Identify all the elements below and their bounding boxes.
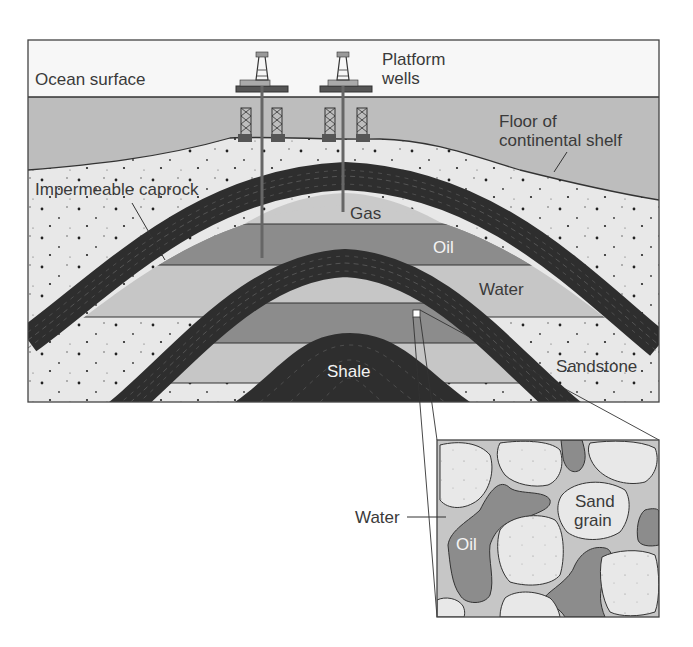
label-floor-1: Floor of [499, 112, 557, 131]
label-platform-wells-2: wells [382, 69, 420, 88]
label-gas: Gas [350, 204, 381, 223]
inset-label-grain: grain [574, 511, 612, 530]
inset-label-oil: Oil [456, 535, 477, 554]
label-shale: Shale [327, 362, 370, 381]
label-water: Water [479, 280, 524, 299]
label-oil: Oil [433, 238, 454, 257]
inset-label-sand: Sand [575, 492, 615, 511]
label-floor-2: continental shelf [499, 131, 622, 150]
diagram-canvas [0, 0, 693, 647]
label-sandstone: Sandstone [556, 357, 637, 376]
inset-magnified-view [437, 440, 659, 617]
label-ocean-surface: Ocean surface [35, 70, 146, 89]
inset-label-water: Water [355, 508, 400, 527]
zoom-marker [413, 310, 420, 317]
label-platform-wells-1: Platform [382, 50, 445, 69]
label-caprock: Impermeable caprock [35, 180, 198, 199]
